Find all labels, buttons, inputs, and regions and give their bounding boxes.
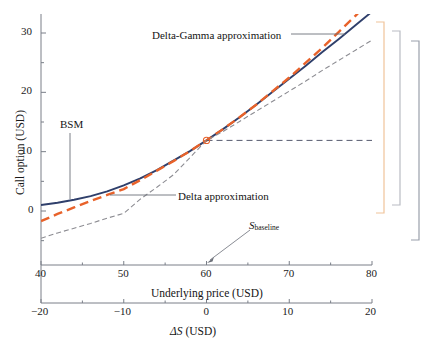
x-tick-label-price-40: 40 xyxy=(35,267,46,279)
y-tick-label-10: 10 xyxy=(21,144,32,156)
chart-figure: Call option (USD) Underlying price (USD)… xyxy=(0,0,437,346)
delta-gamma-annotation: Delta-Gamma approximation xyxy=(152,29,281,41)
bracket-gray-outer xyxy=(411,41,419,240)
y-tick-label-0: 0 xyxy=(28,203,34,215)
delta-annotation: Delta approximation xyxy=(178,190,269,202)
y-tick-label-20: 20 xyxy=(21,84,32,96)
bsm-annotation: BSM xyxy=(60,118,83,130)
x-tick-label-price-80: 80 xyxy=(366,267,377,279)
x-tick-label-ds-20: 20 xyxy=(365,305,376,317)
s-baseline-annotation: Sbaseline xyxy=(249,219,279,232)
x-tick-label-ds-10: 10 xyxy=(282,305,293,317)
x-axis-title-bottom: ΔS (USD) xyxy=(170,325,216,337)
x-tick-label-ds--20: −20 xyxy=(31,305,48,317)
s-baseline-arrow xyxy=(210,230,250,260)
x-tick-label-price-50: 50 xyxy=(118,267,129,279)
bracket-gray-mid xyxy=(392,31,400,205)
x-axis-title-top: Underlying price (USD) xyxy=(151,287,263,299)
x-tick-label-price-70: 70 xyxy=(283,267,294,279)
y-tick-label-30: 30 xyxy=(21,25,32,37)
x-tick-label-ds-0: 0 xyxy=(204,305,210,317)
x-tick-label-price-60: 60 xyxy=(201,267,212,279)
x-tick-label-ds--10: −10 xyxy=(114,305,131,317)
bracket-orange xyxy=(376,22,384,213)
s-baseline-subscript: baseline xyxy=(255,223,280,232)
